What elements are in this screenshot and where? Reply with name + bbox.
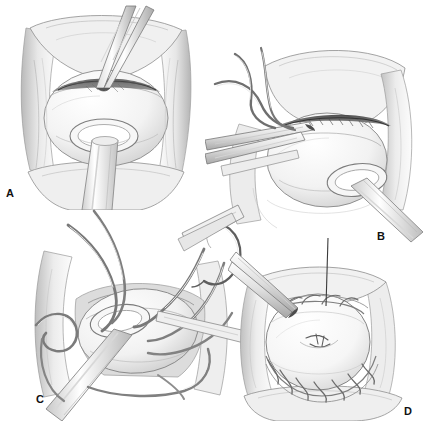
panel-label-b: B: [377, 231, 385, 242]
panel-a-illustration: [0, 0, 212, 210]
panel-c: [28, 203, 248, 421]
panel-c-illustration: [28, 203, 248, 421]
panel-label-d: D: [404, 406, 412, 417]
panel-d-illustration: [228, 238, 423, 421]
figure-container: A B C D: [0, 0, 423, 421]
panel-label-a: A: [6, 188, 14, 199]
panel-label-c: C: [36, 394, 44, 405]
panel-d: [228, 238, 423, 421]
panel-a: [0, 0, 212, 210]
